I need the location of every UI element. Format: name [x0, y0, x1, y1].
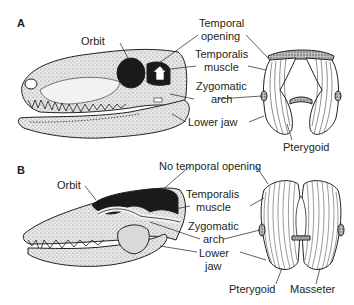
- label-temporalis-b-line1: Temporalis: [186, 188, 239, 200]
- label-pterygoid-b: Pterygoid: [229, 283, 275, 295]
- skull-b: [23, 188, 185, 266]
- cross-section-b: [259, 181, 344, 270]
- label-lower-jaw-a: Lower jaw: [188, 116, 238, 128]
- cross-section-a: [261, 50, 341, 134]
- label-temporal-opening-a-line1: Temporal: [199, 17, 244, 29]
- panel-letter-b: B: [17, 164, 25, 176]
- panel-letter-a: A: [17, 17, 25, 29]
- label-lower-jaw-b-line1: Lower: [199, 247, 229, 259]
- label-orbit-a: Orbit: [81, 35, 105, 47]
- label-temporalis-a-line2: muscle: [204, 61, 239, 73]
- label-lower-jaw-b-line2: jaw: [205, 260, 222, 272]
- label-masseter-b: Masseter: [290, 283, 335, 295]
- label-temporal-opening-a-line2: opening: [201, 30, 240, 42]
- skull-a: [18, 49, 189, 138]
- label-no-temporal-opening-b: No temporal opening: [159, 160, 261, 172]
- label-zygomatic-b-line2: arch: [203, 233, 224, 245]
- label-temporalis-a-line1: Temporalis: [195, 48, 248, 60]
- label-pterygoid-a: Pterygoid: [283, 141, 329, 153]
- label-zygomatic-b-line1: Zygomatic: [188, 220, 239, 232]
- label-zygomatic-a-line2: arch: [211, 93, 232, 105]
- label-orbit-b: Orbit: [57, 179, 81, 191]
- label-temporalis-b-line2: muscle: [196, 201, 231, 213]
- label-zygomatic-a-line1: Zygomatic: [196, 80, 247, 92]
